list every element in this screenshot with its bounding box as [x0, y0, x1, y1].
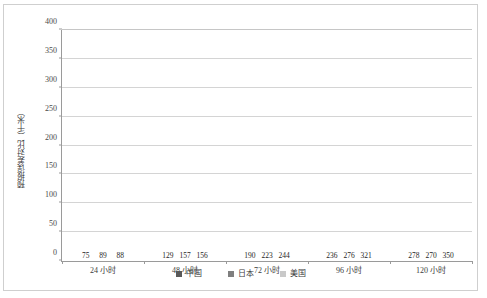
legend-label: 日本	[238, 270, 254, 278]
bar-group-bars: 278270350	[405, 30, 457, 261]
bar-group-bars: 129157156	[159, 30, 211, 261]
y-axis-tick-label: 250	[45, 105, 57, 113]
x-axis-tick-mark	[144, 261, 145, 264]
x-axis-tick-mark	[62, 261, 63, 264]
y-axis-tick-label: 50	[49, 220, 57, 228]
bar-group: 19022324472 小时	[226, 30, 308, 261]
bar-value-label: 223	[261, 252, 272, 260]
legend-label: 美国	[290, 270, 306, 278]
bar-group: 12915715648 小时	[144, 30, 226, 261]
bar-value-label: 88	[116, 252, 124, 260]
legend-item[interactable]: 中国	[176, 270, 202, 278]
bar-groups: 75898824 小时12915715648 小时19022324472 小时2…	[62, 30, 472, 261]
bar-group: 278270350120 小时	[390, 30, 472, 261]
y-axis-tick-label: 400	[45, 18, 57, 26]
y-axis-title: 预报误差对比（千米）	[16, 108, 27, 188]
bar-value-label: 75	[82, 252, 90, 260]
y-axis-tick-label: 350	[45, 47, 57, 55]
bar-value-label: 157	[179, 252, 190, 260]
legend-swatch	[228, 271, 234, 277]
bar-group: 75898824 小时	[62, 30, 144, 261]
legend-swatch	[280, 271, 286, 277]
bar-group-bars: 190223244	[241, 30, 293, 261]
x-axis-tick-mark	[390, 261, 391, 264]
bar-value-label: 236	[326, 252, 337, 260]
y-axis-tick-label: 300	[45, 76, 57, 84]
bar-value-label: 350	[443, 252, 454, 260]
bar-value-label: 190	[244, 252, 255, 260]
y-axis-tick-label: 200	[45, 134, 57, 142]
bar-value-label: 321	[361, 252, 372, 260]
bar-value-label: 278	[408, 252, 419, 260]
x-axis-tick-mark	[472, 261, 473, 264]
bar-value-label: 156	[197, 252, 208, 260]
bar-value-label: 270	[425, 252, 436, 260]
bar-group: 23627632196 小时	[308, 30, 390, 261]
legend-item[interactable]: 美国	[280, 270, 306, 278]
y-axis-tick-label: 0	[53, 249, 57, 257]
plot-area: 050100150200250300350400 75898824 小时1291…	[61, 30, 472, 262]
bar-value-label: 276	[343, 252, 354, 260]
bar-group-bars: 758988	[77, 30, 129, 261]
bar-group-bars: 236276321	[323, 30, 375, 261]
x-axis-tick-mark	[226, 261, 227, 264]
legend-label: 中国	[186, 270, 202, 278]
y-axis-tick-label: 100	[45, 191, 57, 199]
y-axis-tick-label: 150	[45, 162, 57, 170]
bar-value-label: 244	[279, 252, 290, 260]
x-axis-tick-mark	[308, 261, 309, 264]
chart-legend: 中国日本美国	[4, 270, 477, 278]
chart-frame: 预报误差对比（千米） 050100150200250300350400 7589…	[3, 4, 478, 291]
legend-item[interactable]: 日本	[228, 270, 254, 278]
bar-value-label: 89	[99, 252, 107, 260]
legend-swatch	[176, 271, 182, 277]
bar-value-label: 129	[162, 252, 173, 260]
